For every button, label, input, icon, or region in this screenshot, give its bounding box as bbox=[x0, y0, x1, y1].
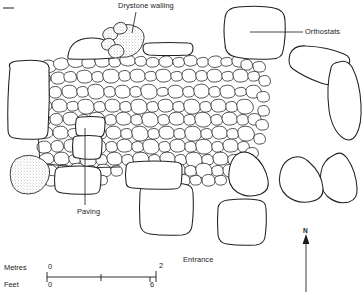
scale-feet-start: 0 bbox=[48, 281, 52, 288]
label-entrance: Entrance bbox=[183, 256, 213, 263]
orthostat-bottom-left-slab bbox=[55, 166, 102, 194]
scale-metres-end: 2 bbox=[159, 262, 163, 269]
orthostat-center-right-angled bbox=[279, 157, 323, 202]
site-plan-figure: Drystone walling Orthostats Paving Entra… bbox=[0, 0, 364, 295]
scale-feet-end: 6 bbox=[150, 281, 154, 288]
site-plan-drawing bbox=[0, 0, 364, 295]
orthostat-right-lower bbox=[320, 153, 357, 203]
drystone-stone-d bbox=[108, 44, 124, 58]
label-drystone-walling: Drystone walling bbox=[118, 2, 174, 9]
orthostat-bottom-center-slab bbox=[126, 161, 183, 189]
orthostat-left-tall bbox=[8, 60, 50, 139]
orthostat-bottom-right bbox=[218, 199, 267, 245]
drystone-stone-lower-left bbox=[10, 155, 49, 194]
scale-feet-label: Feet bbox=[4, 281, 19, 288]
label-orthostats: Orthostats bbox=[305, 28, 340, 35]
scale-bar-labels: Metres Feet 0 2 0 6 bbox=[4, 262, 184, 292]
orthostat-top-right-big bbox=[224, 6, 285, 59]
scale-metres-label: Metres bbox=[4, 264, 27, 271]
orthostat-inner-paving-slab-a bbox=[76, 117, 106, 138]
north-arrow-letter: N bbox=[303, 228, 308, 235]
orthostat-bottom-center-large bbox=[140, 183, 194, 235]
scale-metres-start: 0 bbox=[48, 263, 52, 270]
orthostat-right-mid bbox=[328, 61, 361, 140]
orthostat-top-slab bbox=[143, 43, 193, 56]
drystone-stone-c bbox=[113, 22, 127, 34]
label-paving: Paving bbox=[77, 208, 100, 215]
orthostat-inner-right-angled bbox=[229, 152, 269, 196]
north-arrow bbox=[303, 234, 310, 292]
orthostat-inner-paving-slab-b bbox=[73, 136, 103, 160]
